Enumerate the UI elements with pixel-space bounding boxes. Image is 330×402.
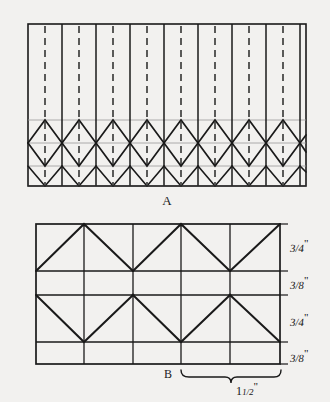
figure-a-hex-lower-chevrons — [28, 143, 306, 166]
figure-b-dim-row-3: 3/4 " — [290, 312, 308, 328]
figure-a-frame — [28, 24, 306, 186]
figure-b-frame — [36, 224, 280, 364]
technical-drawing-sheet: A — [0, 0, 330, 402]
dim-1-denominator: 4 — [298, 242, 305, 254]
figure-b-dim-row-1: 3/4 " — [290, 238, 308, 254]
dim-4-denominator: 8 — [298, 352, 305, 364]
dim-2-denominator: 8 — [298, 279, 305, 291]
width-denominator: 2 — [248, 387, 254, 397]
width-numerator: 1 — [241, 387, 247, 397]
figure-a-hex-upper-chevrons — [28, 120, 306, 143]
figure-b — [36, 224, 288, 384]
dim-3-denominator: 4 — [298, 316, 305, 328]
figure-b-lower-zigzag — [36, 295, 280, 342]
figure-b-label: B — [164, 367, 172, 381]
figure-b-dimension-ticks — [280, 224, 288, 364]
figure-b-width-brace — [181, 370, 281, 383]
width-unit: " — [254, 380, 258, 392]
figure-b-nodes — [83, 224, 232, 297]
figure-a-bottom-vees — [28, 166, 306, 186]
figure-b-upper-zigzag — [36, 224, 280, 271]
figure-b-dim-row-2: 3/8 " — [290, 275, 308, 291]
figure-a-label: A — [162, 193, 172, 208]
figure-b-width-dimension: 11/2" — [236, 381, 257, 397]
figure-b-dim-row-4: 3/8 " — [290, 348, 308, 364]
figure-a-course-lines — [28, 120, 306, 166]
figure-a — [28, 24, 306, 186]
